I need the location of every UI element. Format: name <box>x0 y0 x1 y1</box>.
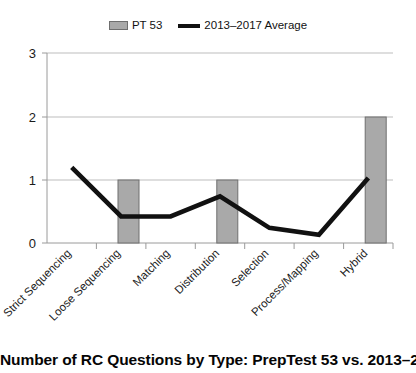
y-tick-marks <box>42 53 47 243</box>
x-label-matching: Matching <box>131 247 172 288</box>
plot-area: 3 2 1 0 St <box>0 0 416 373</box>
plot-svg: 3 2 1 0 St <box>0 0 416 373</box>
bar-loose-sequencing[interactable] <box>118 180 139 243</box>
y-tick-label-1: 1 <box>29 173 36 188</box>
x-label-hybrid: Hybrid <box>338 247 370 279</box>
x-axis-labels: Strict Sequencing Loose Sequencing Match… <box>1 247 370 323</box>
x-label-selection: Selection <box>229 247 271 289</box>
chart-container: PT 53 2013–2017 Average <box>0 0 416 373</box>
x-label-distribution: Distribution <box>172 247 221 296</box>
x-tick-marks <box>96 243 393 249</box>
y-tick-label-3: 3 <box>29 46 36 61</box>
chart-title: Number of RC Questions by Type: PrepTest… <box>0 351 416 369</box>
gridlines <box>47 53 393 180</box>
y-tick-label-2: 2 <box>29 110 36 125</box>
y-tick-label-0: 0 <box>29 236 36 251</box>
bar-distribution[interactable] <box>217 180 238 243</box>
